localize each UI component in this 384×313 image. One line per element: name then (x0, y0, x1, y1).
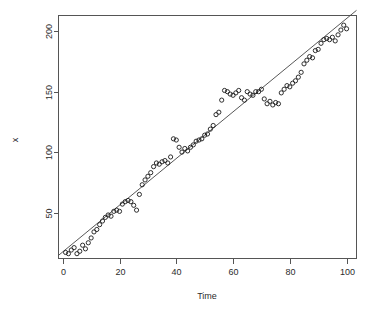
y-axis-ticks (54, 32, 59, 214)
data-point (132, 203, 136, 207)
x-axis-title: Time (197, 291, 217, 301)
data-point (72, 246, 76, 250)
data-point (330, 35, 334, 39)
data-point (296, 75, 300, 79)
data-point (342, 23, 346, 27)
data-point (78, 249, 82, 253)
data-point (211, 123, 215, 127)
x-axis-tick-labels: 020406080100 (61, 267, 355, 277)
data-point (83, 247, 87, 251)
data-point (169, 155, 173, 159)
y-axis-title: x (10, 137, 20, 142)
y-tick-label: 150 (44, 85, 54, 100)
data-point (220, 98, 224, 102)
y-tick-label: 100 (44, 145, 54, 160)
data-point (177, 145, 181, 149)
data-point (242, 98, 246, 102)
data-point (143, 178, 147, 182)
data-point (305, 58, 309, 62)
data-point (237, 88, 241, 92)
x-axis-ticks (64, 259, 348, 264)
data-point (134, 208, 138, 212)
data-point (98, 223, 102, 227)
data-point (302, 62, 306, 66)
data-point (146, 174, 150, 178)
data-point (137, 192, 141, 196)
y-tick-label: 200 (44, 24, 54, 39)
data-point (344, 27, 348, 31)
y-axis-tick-labels: 50100150200 (44, 24, 54, 219)
x-tick-label: 60 (228, 267, 238, 277)
data-points (64, 23, 349, 256)
data-point (217, 110, 221, 114)
data-point (89, 236, 93, 240)
y-tick-label: 50 (44, 208, 54, 218)
x-tick-label: 20 (115, 267, 125, 277)
x-tick-label: 100 (340, 267, 355, 277)
data-point (336, 33, 340, 37)
x-tick-label: 40 (171, 267, 181, 277)
data-point (299, 70, 303, 74)
data-point (339, 28, 343, 32)
scatter-plot-figure: 020406080100 50100150200 Time x (0, 0, 384, 313)
data-point (81, 243, 85, 247)
data-point (151, 165, 155, 169)
plot-box-border (59, 16, 357, 259)
data-point (282, 87, 286, 91)
x-tick-label: 0 (61, 267, 66, 277)
data-point (262, 97, 266, 101)
data-point (86, 241, 90, 245)
data-point (149, 171, 153, 175)
data-point (333, 39, 337, 43)
data-point (319, 41, 323, 45)
x-tick-label: 80 (285, 267, 295, 277)
plot-canvas: 020406080100 50100150200 Time x (0, 0, 384, 313)
data-point (95, 227, 99, 231)
data-point (166, 161, 170, 165)
